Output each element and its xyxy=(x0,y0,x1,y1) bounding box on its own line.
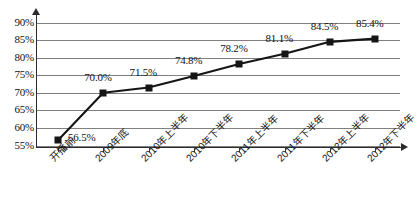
data-point-label: 78.2% xyxy=(220,43,247,54)
data-point-marker xyxy=(372,35,379,42)
data-point-label: 74.8% xyxy=(175,55,202,66)
data-point-label: 70.0% xyxy=(84,72,111,83)
data-point-label: 85.4% xyxy=(356,18,383,29)
data-point-marker xyxy=(236,60,243,67)
data-point-marker xyxy=(190,72,197,79)
data-point-label: 84.5% xyxy=(311,21,338,32)
data-point-label: 81.1% xyxy=(266,33,293,44)
data-point-marker xyxy=(281,50,288,57)
data-point-marker xyxy=(145,84,152,91)
data-point-marker xyxy=(100,89,107,96)
data-point-label: 71.5% xyxy=(130,67,157,78)
data-point-marker xyxy=(326,38,333,45)
